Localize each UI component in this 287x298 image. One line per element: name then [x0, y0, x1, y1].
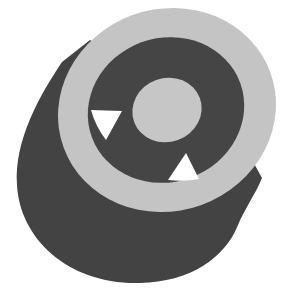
cylinder-figure [0, 0, 287, 298]
cylinder-drawing [0, 0, 287, 298]
